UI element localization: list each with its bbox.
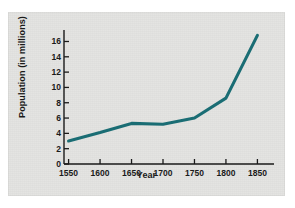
y-tick-label: 16 [52,36,61,46]
plot-area: 0246810121416155016001650170017501800185… [8,12,285,196]
x-axis-label: Year [8,170,285,180]
y-tick-label: 10 [52,82,61,92]
y-tick-label: 8 [56,98,61,108]
y-axis-label: Population (in millions) [17,7,27,127]
y-tick-label: 4 [56,128,61,138]
y-tick-label: 2 [56,144,61,154]
line-chart-svg [8,12,285,196]
population-line [69,35,258,141]
y-tick-label: 6 [56,113,61,123]
y-tick-label: 14 [52,52,61,62]
chart-figure: 0246810121416155016001650170017501800185… [8,12,285,196]
y-tick-label: 12 [52,67,61,77]
